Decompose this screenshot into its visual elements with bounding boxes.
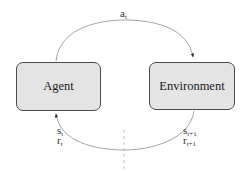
action-subscript: t — [125, 13, 127, 21]
environment-label: Environment — [159, 79, 224, 94]
agent-node: Agent — [16, 62, 101, 111]
current-reward-label: rt — [57, 135, 63, 145]
feedback-arrow — [56, 111, 194, 150]
next-reward-subscript: t+1 — [187, 140, 196, 148]
next-reward-label: rt+1 — [183, 135, 196, 145]
action-arrow — [56, 20, 193, 61]
current-reward-subscript: t — [61, 140, 63, 148]
environment-node: Environment — [149, 62, 235, 110]
agent-label: Agent — [43, 79, 74, 94]
action-label: at — [120, 8, 127, 18]
